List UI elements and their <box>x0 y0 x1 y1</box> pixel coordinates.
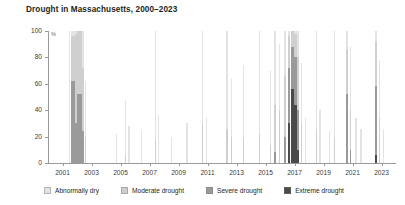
drought-bar <box>206 31 207 163</box>
drought-bar-segment <box>319 110 320 163</box>
drought-bar-segment <box>125 155 126 163</box>
drought-bar-segment <box>355 118 356 163</box>
drought-bar <box>375 31 377 163</box>
drought-bar <box>360 31 361 163</box>
y-tick-label: 100 <box>16 27 42 34</box>
drought-bar-segment <box>259 134 260 163</box>
drought-bar <box>350 31 351 163</box>
x-tick-label: 2001 <box>48 169 78 176</box>
drought-bar-segment <box>329 131 330 163</box>
drought-bar-segment <box>305 118 306 163</box>
drought-bar-segment <box>284 137 286 163</box>
drought-bar <box>329 31 330 163</box>
x-tick-label: 2003 <box>77 169 107 176</box>
drought-bar-segment <box>375 155 377 163</box>
x-tick-mark <box>179 163 180 166</box>
drought-bar <box>171 31 172 163</box>
x-axis-line <box>48 163 396 164</box>
drought-bar-segment <box>350 150 351 163</box>
drought-bar-segment <box>158 115 159 163</box>
drought-bar <box>231 31 232 163</box>
x-tick-mark <box>208 163 209 166</box>
drought-bar-segment <box>85 137 86 163</box>
y-tick-mark <box>45 163 48 164</box>
drought-bar <box>243 31 244 163</box>
drought-bar-segment <box>375 86 377 163</box>
x-tick-mark <box>266 163 267 166</box>
drought-bar-segment <box>297 150 299 163</box>
legend-item[interactable]: Extreme drought <box>284 187 344 194</box>
drought-bar-segment <box>360 129 361 163</box>
x-tick-mark <box>121 163 122 166</box>
drought-bar-segment <box>202 123 204 163</box>
legend-label: Moderate drought <box>132 187 184 194</box>
y-tick-label: 40 <box>16 106 42 113</box>
chart-title: Drought in Massachusetts, 2000–2023 <box>26 5 177 14</box>
drought-bar-segment <box>270 145 271 163</box>
drought-bar <box>383 31 384 163</box>
legend-item[interactable]: Moderate drought <box>121 187 184 194</box>
chart-legend: Abnormally dryModerate droughtSevere dro… <box>44 187 366 194</box>
drought-bar <box>284 31 286 163</box>
plot-area <box>48 31 396 163</box>
drought-bar-segment <box>243 139 244 163</box>
legend-swatch-icon <box>206 187 213 194</box>
x-tick-mark <box>353 163 354 166</box>
y-tick-label: 20 <box>16 133 42 140</box>
drought-bar-segment <box>206 118 207 163</box>
drought-bar <box>319 31 320 163</box>
drought-bar <box>202 31 204 163</box>
drought-bar <box>116 31 117 163</box>
drought-bar-segment <box>186 123 187 163</box>
drought-bar <box>270 31 271 163</box>
drought-bar <box>279 31 280 163</box>
drought-bar-segment <box>274 152 275 163</box>
drought-bar-segment <box>128 126 129 163</box>
x-tick-mark <box>237 163 238 166</box>
drought-bar <box>305 31 306 163</box>
drought-bar-segment <box>383 129 384 163</box>
drought-bar <box>186 31 187 163</box>
drought-bar-segment <box>301 123 302 163</box>
drought-bar-segment <box>316 129 317 163</box>
drought-bar-segment <box>116 134 117 163</box>
legend-swatch-icon <box>121 187 128 194</box>
drought-bar <box>85 31 86 163</box>
y-tick-label: 80 <box>16 53 42 60</box>
drought-bar-segment <box>379 118 380 163</box>
x-tick-label: 2013 <box>222 169 252 176</box>
x-tick-mark <box>382 163 383 166</box>
drought-bar <box>226 31 227 163</box>
x-tick-mark <box>295 163 296 166</box>
y-tick-label: 60 <box>16 80 42 87</box>
x-tick-label: 2017 <box>280 169 310 176</box>
y-tick-label: 0 <box>16 159 42 166</box>
drought-bar <box>297 31 299 163</box>
x-tick-label: 2015 <box>251 169 281 176</box>
drought-bar-segment <box>125 100 126 163</box>
drought-bar <box>301 31 302 163</box>
drought-bar-segment <box>334 137 335 163</box>
x-tick-label: 2021 <box>338 169 368 176</box>
x-tick-label: 2023 <box>367 169 397 176</box>
drought-bar-segment <box>226 129 227 163</box>
drought-bar <box>334 31 335 163</box>
x-tick-label: 2005 <box>106 169 136 176</box>
legend-label: Severe drought <box>217 187 262 194</box>
legend-swatch-icon <box>44 187 51 194</box>
drought-bar <box>158 31 159 163</box>
drought-bar-segment <box>346 94 348 163</box>
legend-label: Extreme drought <box>295 187 344 194</box>
drought-chart: Drought in Massachusetts, 2000–2023 % 02… <box>0 0 405 205</box>
x-tick-label: 2019 <box>309 169 339 176</box>
x-tick-label: 2011 <box>193 169 223 176</box>
legend-item[interactable]: Abnormally dry <box>44 187 99 194</box>
drought-bar <box>125 31 126 163</box>
drought-bar <box>316 31 317 163</box>
x-tick-label: 2009 <box>164 169 194 176</box>
x-tick-label: 2007 <box>135 169 165 176</box>
drought-bar <box>346 31 348 163</box>
x-tick-mark <box>92 163 93 166</box>
drought-bar <box>141 31 142 163</box>
legend-item[interactable]: Severe drought <box>206 187 262 194</box>
